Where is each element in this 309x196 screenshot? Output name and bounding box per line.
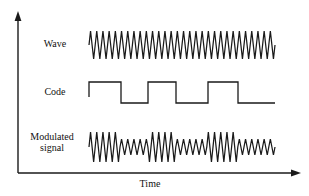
series-label-modulated: Modulatedsignal <box>16 131 88 153</box>
series-label-modulated-line2: signal <box>40 142 64 153</box>
wave-series-path <box>89 31 275 59</box>
x-axis-label: Time <box>110 178 190 190</box>
x-axis-arrowhead <box>291 170 301 177</box>
code-series-path <box>89 82 275 103</box>
y-axis-arrowhead <box>15 11 22 21</box>
series-label-wave: Wave <box>24 38 86 49</box>
waveform-figure: Wave Code Modulatedsignal Time <box>0 0 309 196</box>
waveform-plot-canvas <box>0 0 309 196</box>
series-label-code: Code <box>24 86 86 97</box>
modulated-series-path <box>89 132 275 162</box>
series-label-modulated-line1: Modulated <box>30 131 73 142</box>
